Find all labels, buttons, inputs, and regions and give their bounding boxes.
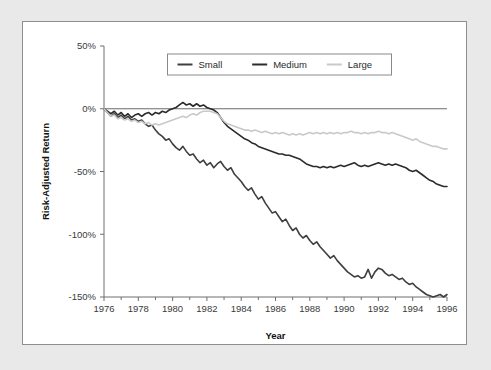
x-tick-label: 1994 <box>402 303 423 314</box>
x-tick-label: 1980 <box>162 303 183 314</box>
axes <box>104 46 447 297</box>
y-tick-label: -50% <box>74 166 97 177</box>
y-axis-title: Risk-Adjusted Return <box>40 123 51 220</box>
series-line-small <box>104 109 447 297</box>
x-tick-label: 1986 <box>265 303 286 314</box>
x-tick-label: 1996 <box>436 303 457 314</box>
x-tick-label: 1976 <box>93 303 114 314</box>
series-line-medium <box>104 102 447 186</box>
y-tick-label: -100% <box>69 229 97 240</box>
y-tick-label: 50% <box>77 40 97 51</box>
chart-panel: 50%0%-50%-100%-150% 19761978198019821984… <box>22 21 467 345</box>
x-axis-title: Year <box>265 330 285 341</box>
legend-label-medium: Medium <box>273 59 307 70</box>
data-series-group <box>104 102 447 297</box>
x-tick-label: 1988 <box>299 303 320 314</box>
x-tick-label: 1978 <box>128 303 149 314</box>
x-axis-tick-labels: 1976197819801982198419861988199019921994… <box>93 303 457 314</box>
y-axis-tick-labels: 50%0%-50%-100%-150% <box>69 40 97 302</box>
x-tick-label: 1990 <box>334 303 355 314</box>
y-tick-label: 0% <box>82 103 96 114</box>
y-axis-ticks <box>100 46 104 297</box>
chart-legend: SmallMediumLarge <box>168 54 392 75</box>
chart-svg: 50%0%-50%-100%-150% 19761978198019821984… <box>23 22 468 346</box>
x-tick-label: 1982 <box>196 303 217 314</box>
figure-root: 50%0%-50%-100%-150% 19761978198019821984… <box>0 0 491 370</box>
x-tick-label: 1984 <box>231 303 252 314</box>
legend-label-small: Small <box>199 59 223 70</box>
legend-label-large: Large <box>348 59 372 70</box>
y-tick-label: -150% <box>69 291 97 302</box>
x-tick-label: 1992 <box>368 303 389 314</box>
